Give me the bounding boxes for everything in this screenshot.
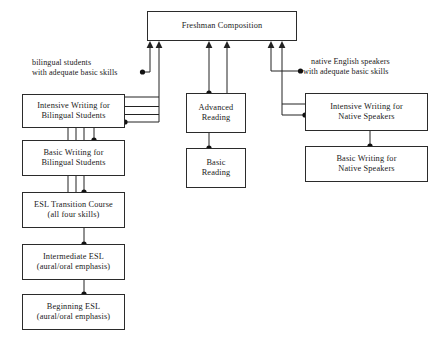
node-label-line2: (aural/oral emphasis) <box>37 312 110 323</box>
node-label-line1: Basic <box>206 158 225 169</box>
wire-native-entry-to-freshman <box>271 47 299 71</box>
node-label-line1: Intensive Writing for <box>330 102 403 113</box>
node-label-line1: Basic Writing for <box>43 148 103 159</box>
node-beginning-esl[interactable]: Beginning ESL (aural/oral emphasis) <box>22 294 125 330</box>
annotation-line2: with adequate basic skills <box>32 68 118 78</box>
node-intensive-writing-native[interactable]: Intensive Writing for Native Speakers <box>305 93 428 131</box>
node-label-line1: Intensive Writing for <box>37 101 110 112</box>
node-label-line2: Native Speakers <box>338 112 394 123</box>
node-freshman-composition[interactable]: Freshman Composition <box>147 11 297 41</box>
arrowheads-into-freshman-composition <box>147 41 286 48</box>
node-basic-reading[interactable]: Basic Reading <box>186 148 246 188</box>
node-label-line2: Bilingual Students <box>41 111 105 122</box>
node-label-line1: ESL Transition Course <box>34 200 113 211</box>
annotation-line2: with adequate basic skills <box>303 67 390 77</box>
node-intensive-writing-bilingual[interactable]: Intensive Writing for Bilingual Students <box>22 94 125 128</box>
junction-dot-bilingual-entry <box>140 69 145 74</box>
node-esl-transition-course[interactable]: ESL Transition Course (all four skills) <box>22 192 125 228</box>
wire-bilingual-entry-to-freshman <box>144 47 150 72</box>
node-label-line1: Intermediate ESL <box>43 252 104 263</box>
node-label-line2: Bilingual Students <box>41 158 105 169</box>
node-label-line1: Beginning ESL <box>47 302 100 313</box>
flowchart-canvas: Freshman Composition Intensive Writing f… <box>0 0 437 342</box>
node-label-line2: (aural/oral emphasis) <box>37 262 110 273</box>
node-intermediate-esl[interactable]: Intermediate ESL (aural/oral emphasis) <box>22 244 125 280</box>
wire-right-spine <box>282 47 305 115</box>
node-label-line2: Reading <box>202 168 231 179</box>
annotation-line1: native English speakers <box>303 57 390 67</box>
node-label-line1: Advanced <box>199 103 234 114</box>
node-advanced-reading[interactable]: Advanced Reading <box>186 93 246 133</box>
node-basic-writing-native[interactable]: Basic Writing for Native Speakers <box>305 146 428 182</box>
node-label-line1: Basic Writing for <box>336 154 396 165</box>
node-label: Freshman Composition <box>182 21 263 32</box>
node-label-line2: Reading <box>202 113 231 124</box>
node-basic-writing-bilingual[interactable]: Basic Writing for Bilingual Students <box>22 140 125 176</box>
annotation-line1: bilingual students <box>32 58 118 68</box>
annotation-native-entry: native English speakers with adequate ba… <box>303 57 390 77</box>
node-label-line2: Native Speakers <box>338 164 394 175</box>
annotation-bilingual-entry: bilingual students with adequate basic s… <box>32 58 118 78</box>
node-label-line2: (all four skills) <box>48 210 100 221</box>
